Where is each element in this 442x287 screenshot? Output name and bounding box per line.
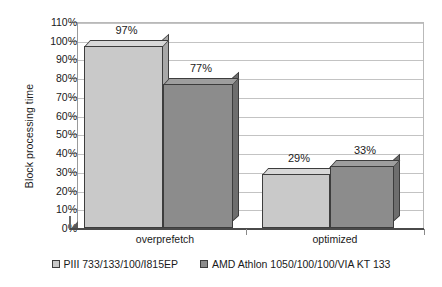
bar-value-label: 29% [288,152,310,164]
legend-swatch-icon [200,260,208,268]
bar-value-label: 97% [115,24,137,36]
bar-front-face [262,174,330,228]
legend-item[interactable]: AMD Athlon 1050/100/100/VIA KT 133 [200,258,390,270]
x-axis-tick [424,229,425,235]
bar-side-face [232,71,239,221]
y-axis-tick-label: 30% [33,167,77,177]
y-axis-tick-label: 90% [33,54,77,64]
y-axis: 110%100%90%80%70%60%50%40%30%20%10%0% [0,0,77,287]
bar[interactable] [262,174,330,228]
legend-item-label: PIII 733/133/100/I815EP [64,258,178,270]
y-axis-tick-label: 70% [33,92,77,102]
bar[interactable] [330,166,394,228]
y-axis-tick-label: 80% [33,73,77,83]
bar-front-face [84,46,163,228]
bar-value-label: 33% [354,144,376,156]
x-axis-category-label: overprefetch [136,233,194,245]
legend-swatch-icon [52,260,60,268]
x-axis-tick [246,229,247,235]
bar-value-label: 77% [190,62,212,74]
y-axis-tick-label: 10% [33,204,77,214]
y-axis-tick-label: 40% [33,148,77,158]
legend-item[interactable]: PIII 733/133/100/I815EP [52,258,178,270]
bar[interactable] [84,46,163,228]
x-axis-category-label: optimized [313,233,358,245]
axis-baseline [70,228,424,230]
y-axis-tick-label: 100% [33,36,77,46]
legend-item-label: AMD Athlon 1050/100/100/VIA KT 133 [212,258,390,270]
bar[interactable] [163,84,233,228]
bar-front-face [330,166,394,228]
bar-front-face [163,84,233,228]
y-axis-tick-label: 50% [33,129,77,139]
legend: PIII 733/133/100/I815EPAMD Athlon 1050/1… [0,258,442,270]
y-axis-tick-label: 20% [33,186,77,196]
y-axis-tick-label: 60% [33,111,77,121]
bar-chart: Block processing time 110%100%90%80%70%6… [0,0,442,287]
y-axis-tick-label: 110% [33,17,77,27]
